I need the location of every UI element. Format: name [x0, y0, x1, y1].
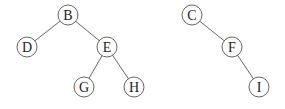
- node-b: B: [58, 5, 78, 25]
- node-label: D: [22, 40, 32, 55]
- nodes: BDEGHCFI: [17, 5, 269, 97]
- node-i: I: [249, 77, 269, 97]
- node-label: H: [129, 80, 139, 95]
- node-f: F: [222, 37, 242, 57]
- node-label: B: [63, 8, 72, 23]
- node-e: E: [97, 37, 117, 57]
- node-g: G: [74, 77, 94, 97]
- node-label: G: [79, 80, 89, 95]
- node-label: F: [228, 40, 236, 55]
- node-h: H: [124, 77, 144, 97]
- node-label: I: [257, 80, 262, 95]
- tree-diagram: BDEGHCFI: [0, 0, 285, 109]
- node-label: C: [187, 8, 196, 23]
- node-c: C: [182, 5, 202, 25]
- node-label: E: [103, 40, 112, 55]
- node-d: D: [17, 37, 37, 57]
